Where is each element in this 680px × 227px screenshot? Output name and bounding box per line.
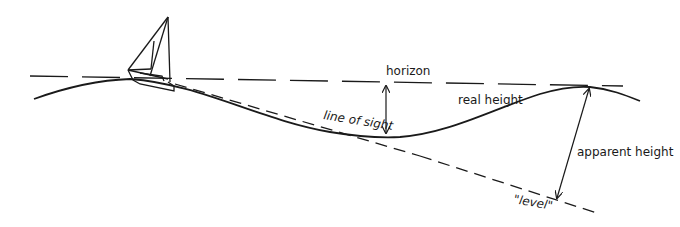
horizon-line [30, 76, 623, 86]
level-label: "level" [512, 192, 553, 213]
real-height-label: real height [458, 93, 523, 107]
apparent-height-label: apparent height [577, 145, 674, 159]
diagram-svg: horizon real height line of sight appare… [0, 0, 680, 227]
wave-surface [34, 79, 640, 137]
line-of-sight-label: line of sight [323, 108, 396, 133]
level-line [420, 156, 597, 213]
horizon-label: horizon [386, 64, 430, 78]
diagram-canvas: horizon real height line of sight appare… [0, 0, 680, 227]
apparent-height-arrow [557, 89, 589, 198]
